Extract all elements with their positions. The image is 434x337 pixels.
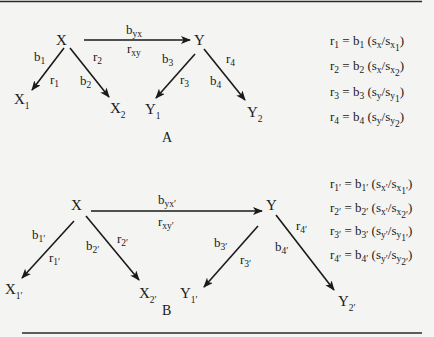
- path-diagram: X Y X1 X2 Y1 Y2 byx rxy b1 r1 b2 r2 b3 r…: [0, 0, 434, 337]
- label-r4: r4′: [296, 218, 307, 235]
- node-y: Y: [266, 197, 277, 213]
- label-r3: r3′: [240, 252, 251, 269]
- panel-a-equations: r1 = b1 (sx/sx1) r2 = b2 (sx/sx2) r3 = b…: [330, 33, 404, 129]
- label-b3: b3′: [214, 235, 227, 252]
- label-b4: b4′: [275, 239, 288, 256]
- label-b4: b4: [210, 73, 222, 90]
- arrow-x-to-x1: [22, 221, 74, 278]
- equation: r1′ = b1′ (sx′/sx1′): [330, 176, 412, 196]
- node-y2: Y2′: [338, 293, 356, 313]
- equation: r1 = b1 (sx/sx1): [330, 33, 404, 53]
- equation: r4 = b4 (sy/sy2): [330, 109, 404, 129]
- label-byx: byx: [126, 22, 142, 39]
- label-rxy: rxy: [127, 41, 141, 58]
- node-x: X: [71, 197, 82, 213]
- panel-b-equations: r1′ = b1′ (sx′/sx1′) r2′ = b2′ (sx′/sx2′…: [330, 176, 412, 267]
- label-b2: b2: [80, 73, 92, 90]
- label-r2: r2: [93, 49, 102, 66]
- node-y: Y: [194, 32, 205, 48]
- node-x1: X1: [14, 91, 30, 111]
- arrow-y-to-y1: [204, 226, 258, 287]
- equation: r3 = b3 (sy/sy1): [330, 84, 404, 104]
- node-x: X: [56, 32, 67, 48]
- label-b1: b1′: [32, 227, 45, 244]
- label-r3: r3: [180, 72, 189, 89]
- panel-b: X Y X1′ X2′ Y1′ Y2′ byx′ rxy′ b1′ r1′ b2…: [5, 176, 412, 318]
- node-y1: Y1′: [180, 285, 198, 305]
- label-rxy: rxy′: [158, 214, 174, 231]
- panel-a: X Y X1 X2 Y1 Y2 byx rxy b1 r1 b2 r2 b3 r…: [14, 22, 404, 145]
- panel-a-caption: A: [162, 130, 173, 145]
- panel-b-caption: B: [162, 303, 171, 318]
- equation: r2′ = b2′ (sx′/sx2′): [330, 200, 412, 220]
- equation: r4′ = b4′ (sy′/sy2′): [330, 247, 412, 267]
- node-x2: X2: [110, 100, 126, 120]
- label-r1: r1: [50, 72, 59, 89]
- node-x2: X2′: [139, 285, 157, 305]
- equation: r3′ = b3′ (sy′/sy1′): [330, 223, 412, 243]
- node-y1: Y1: [145, 101, 161, 121]
- label-r4: r4: [226, 51, 235, 68]
- label-r2: r2′: [117, 231, 128, 248]
- node-y2: Y2: [247, 104, 263, 124]
- label-b2: b2′: [86, 238, 99, 255]
- label-b1: b1: [34, 49, 46, 66]
- label-r1: r1′: [49, 250, 60, 267]
- label-byx: byx′: [158, 192, 176, 209]
- node-x1: X1′: [5, 281, 23, 301]
- equation: r2 = b2 (sx/sx2): [330, 58, 404, 78]
- label-b3: b3: [162, 51, 174, 68]
